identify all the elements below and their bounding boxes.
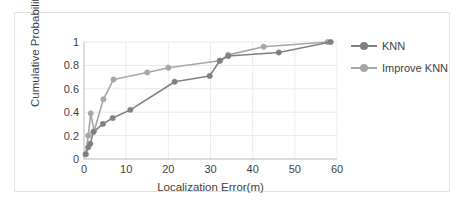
series-improve-knn: [83, 39, 330, 157]
data-point-marker: [276, 50, 281, 55]
x-tick-label: 0: [81, 164, 87, 175]
data-point-marker: [88, 111, 93, 116]
x-axis-tick-labels: 0102030405060: [84, 164, 337, 178]
data-point-marker: [166, 65, 171, 70]
data-point-marker: [83, 152, 88, 157]
legend-label: KNN: [382, 41, 405, 52]
data-point-marker: [101, 97, 106, 102]
x-tick-label: 10: [120, 164, 132, 175]
plot-area: [84, 42, 337, 159]
data-point-marker: [110, 115, 115, 120]
legend-label: Improve KNN: [382, 63, 448, 74]
y-tick-label: 0.8: [64, 60, 79, 71]
data-point-marker: [207, 73, 212, 78]
data-point-marker: [91, 129, 96, 134]
data-point-marker: [172, 79, 177, 84]
data-point-marker: [128, 107, 133, 112]
data-point-marker: [100, 121, 105, 126]
legend-item-improve-knn[interactable]: Improve KNN: [351, 59, 461, 77]
plot-svg: [84, 42, 337, 159]
legend-dot-icon: [360, 64, 368, 72]
legend-dot-icon: [360, 42, 368, 50]
legend-marker-icon: [351, 41, 377, 51]
chart-frame: Cumulative Probability 00.20.40.60.81 01…: [14, 12, 450, 192]
chart-legend: KNNImprove KNN: [351, 37, 461, 81]
y-axis-tick-labels: 00.20.40.60.81: [55, 42, 79, 159]
figure-container: Cumulative Probability 00.20.40.60.81 01…: [0, 0, 462, 215]
y-tick-label: 0.2: [64, 130, 79, 141]
y-tick-label: 1: [73, 37, 79, 48]
data-point-marker: [88, 141, 93, 146]
series-line: [86, 42, 328, 154]
data-point-marker: [226, 53, 231, 58]
legend-marker-icon: [351, 63, 377, 73]
y-tick-label: 0.6: [64, 83, 79, 94]
y-tick-label: 0: [73, 154, 79, 165]
data-point-marker: [261, 44, 266, 49]
x-tick-label: 40: [247, 164, 259, 175]
x-tick-label: 60: [331, 164, 343, 175]
data-point-marker: [145, 70, 150, 75]
legend-item-knn[interactable]: KNN: [351, 37, 461, 55]
data-point-marker: [217, 58, 222, 63]
x-tick-label: 30: [204, 164, 216, 175]
x-tick-label: 20: [162, 164, 174, 175]
figure-caption: [16, 199, 446, 211]
data-point-marker: [86, 133, 91, 138]
data-point-marker: [111, 77, 116, 82]
series-line: [86, 42, 331, 154]
x-axis-title: Localization Error(m): [84, 181, 337, 193]
y-tick-label: 0.4: [64, 107, 79, 118]
x-tick-label: 50: [289, 164, 301, 175]
y-axis-title: Cumulative Probability: [29, 0, 41, 107]
series-knn: [83, 39, 333, 157]
data-point-marker: [328, 39, 333, 44]
